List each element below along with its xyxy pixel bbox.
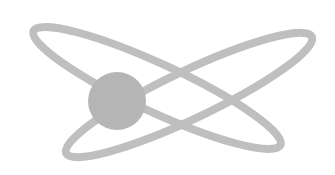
atom-logo — [0, 0, 335, 175]
nucleus-circle — [88, 72, 146, 130]
atom-icon — [0, 0, 335, 175]
